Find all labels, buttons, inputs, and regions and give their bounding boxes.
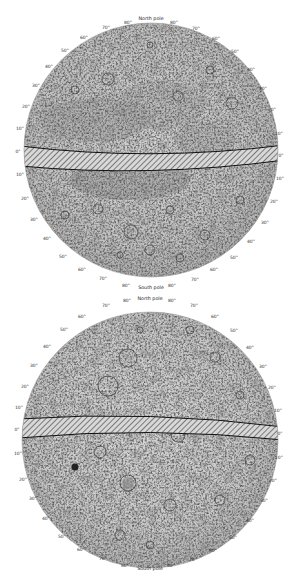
north-pole-label: North pole [138,16,163,21]
lat-label: 80° [124,20,132,25]
lat-label: 30° [261,220,269,225]
lat-label: 40° [45,64,53,69]
lat-label: 80° [123,298,131,303]
lat-label: 60° [209,548,217,553]
lat-label: 60° [211,314,219,319]
lat-label: 70° [102,25,110,30]
lat-label: 10° [16,126,24,131]
lat-label: 40° [42,516,50,521]
lat-label: 60° [210,267,218,272]
lat-label: 70° [99,556,107,561]
lat-label: 30° [29,496,37,501]
lat-label: 80° [168,283,176,288]
lat-label: 60° [77,547,85,552]
lat-label: 10° [276,176,284,181]
lat-label: 10° [15,405,23,410]
lat-label: 20° [268,385,276,390]
crater-floor [122,477,134,489]
lat-label: 30° [260,498,268,503]
lat-label: 70° [189,557,197,562]
lat-label: 50° [230,255,238,260]
lat-label: 50° [61,48,69,53]
lat-label: 20° [22,104,30,109]
far-side-map: North pole South pole 70° 80° 80° 70° 60… [14,296,284,572]
lat-label: 60° [80,35,88,40]
lat-label: 40° [247,239,255,244]
south-pole-label: South pole [137,566,163,571]
lat-label: 30° [259,86,267,91]
lat-label: 80° [167,563,175,568]
lat-label: 0° [14,427,19,432]
lat-label: 10° [16,172,24,177]
lat-label: 10° [274,408,282,413]
lat-label: 70° [99,276,107,281]
near-side-map: North pole South pole 70° 80° 80° 70° 60… [15,16,285,290]
lat-label: 70° [102,303,110,308]
lat-label: 40° [247,67,255,72]
lat-label: 40° [246,518,254,523]
lat-label: 20° [19,477,27,482]
lat-label: 20° [270,199,278,204]
lat-label: 30° [259,364,267,369]
lat-label: 30° [30,363,38,368]
lunar-maps-figure: North pole South pole 70° 80° 80° 70° 60… [0,0,296,582]
lat-label: 20° [21,196,29,201]
lat-label: 10° [275,455,283,460]
lat-label: 80° [122,283,130,288]
lat-label: 40° [43,344,51,349]
lat-label: 40° [43,236,51,241]
lat-label: 30° [32,83,40,88]
lat-label: 20° [268,107,276,112]
lat-label: 50° [59,254,67,259]
lat-label: 60° [78,267,86,272]
lat-label: 20° [21,384,29,389]
dark-crater [72,464,79,471]
lat-label: 40° [246,345,254,350]
lat-label: 0° [15,149,20,154]
lat-label: 80° [121,563,129,568]
lat-label: 50° [230,328,238,333]
lat-label: 10° [275,131,283,136]
lat-label: 30° [30,217,38,222]
lat-label: 50° [231,49,239,54]
lat-label: 50° [229,535,237,540]
lat-label: 70° [190,303,198,308]
lat-label: 70° [192,26,200,31]
lat-label: 10° [14,451,22,456]
south-pole-label: South pole [138,285,164,290]
lat-label: 50° [60,327,68,332]
lat-label: 50° [58,534,66,539]
lat-label: 60° [212,36,220,41]
north-pole-label: North pole [137,296,162,301]
lat-label: 70° [191,277,199,282]
lat-label: 0° [277,431,282,436]
lat-label: 0° [278,153,283,158]
lat-label: 20° [269,478,277,483]
lat-label: 60° [78,314,86,319]
lat-label: 80° [168,298,176,303]
lat-label: 80° [170,20,178,25]
